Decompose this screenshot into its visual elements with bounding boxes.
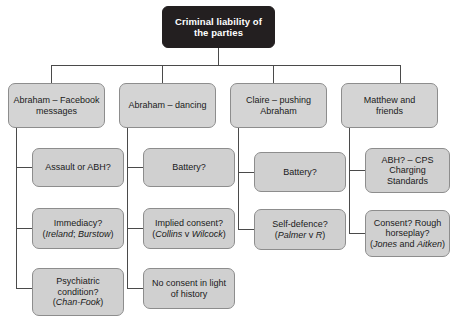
connector-spine-branch-3	[238, 128, 239, 229]
connector-spine-branch-1	[16, 128, 17, 288]
case-name-chan-fook: Chan-Fook	[56, 297, 101, 307]
connector-drop-branch-1	[51, 65, 52, 83]
node-leaf-2-1-line1: Battery?	[172, 162, 206, 172]
case-name-wilcock: Wilcock	[192, 229, 223, 239]
node-branch-abraham-facebook: Abraham – Facebook messages	[8, 83, 105, 128]
node-leaf-abh-cps-charging-standards: ABH? – CPS Charging Standards	[365, 148, 450, 193]
node-leaf-psychiatric-condition: Psychiatric condition? (Chan-Fook)	[32, 268, 124, 316]
node-leaf-4-1-line2: Charging	[389, 165, 426, 175]
node-leaf-assault-or-abh: Assault or ABH?	[32, 148, 124, 187]
case-name-palmer: Palmer	[278, 230, 307, 240]
node-leaf-battery-claire: Battery?	[254, 152, 346, 192]
connector-spine-branch-4	[349, 128, 350, 233]
node-leaf-immediacy: Immediacy? (Ireland; Burstow)	[32, 208, 124, 249]
node-leaf-4-2-line2: horseplay?	[385, 228, 429, 238]
node-leaf-self-defence: Self-defence? (Palmer v R)	[254, 209, 346, 250]
node-leaf-4-2-citation: (Jones and Aitken)	[370, 239, 445, 249]
connector-stub-1-1	[16, 167, 32, 168]
node-leaf-2-3-line1: No consent in light	[152, 278, 226, 288]
connector-stub-1-2	[16, 228, 32, 229]
node-branch-4-line1: Matthew and	[364, 95, 416, 105]
connector-stub-3-1	[238, 172, 254, 173]
connector-stub-4-1	[349, 170, 365, 171]
node-leaf-3-2-line1: Self-defence?	[272, 219, 328, 229]
node-branch-4-line2: friends	[376, 106, 403, 116]
node-leaf-4-1-line3: Standards	[387, 176, 428, 186]
node-leaf-implied-consent: Implied consent? (Collins v Wilcock)	[143, 208, 235, 249]
node-branch-2-line1: Abraham – dancing	[128, 100, 206, 110]
node-branch-1-line2: messages	[36, 106, 77, 116]
node-root: Criminal liability of the parties	[162, 6, 275, 48]
connector-spine-branch-2	[127, 128, 128, 288]
connector-drop-branch-4	[400, 65, 401, 83]
case-name-collins: Collins	[155, 229, 182, 239]
node-leaf-no-consent-history: No consent in light of history	[143, 268, 235, 309]
node-leaf-3-1-line1: Battery?	[283, 167, 317, 177]
node-branch-claire-pushing: Claire – pushing Abraham	[230, 83, 327, 128]
node-leaf-2-3-line2: of history	[171, 289, 208, 299]
node-root-line1: Criminal liability of	[175, 16, 262, 27]
node-leaf-3-2-citation: (Palmer v R)	[275, 230, 326, 240]
case-name-jones: Jones	[373, 239, 397, 249]
connector-drop-branch-2	[162, 65, 163, 83]
node-leaf-1-2-line1: Immediacy?	[54, 218, 103, 228]
node-leaf-consent-rough-horseplay: Consent? Rough horseplay? (Jones and Ait…	[365, 210, 450, 257]
node-branch-3-line1: Claire – pushing	[246, 95, 311, 105]
connector-root-bus	[51, 65, 400, 66]
node-leaf-4-2-line1: Consent? Rough	[374, 218, 442, 228]
node-root-line2: the parties	[194, 27, 243, 38]
connector-root-stem	[218, 48, 219, 65]
node-leaf-2-2-citation: (Collins v Wilcock)	[152, 229, 225, 239]
connector-stub-2-3	[127, 288, 143, 289]
connector-drop-branch-3	[273, 65, 274, 83]
node-leaf-1-2-citation: (Ireland; Burstow)	[42, 229, 113, 239]
flowchart-canvas: Criminal liability of the parties Abraha…	[0, 0, 458, 332]
node-branch-abraham-dancing: Abraham – dancing	[119, 83, 216, 128]
connector-stub-4-2	[349, 233, 365, 234]
node-leaf-1-1-line1: Assault or ABH?	[45, 162, 111, 172]
node-branch-1-line1: Abraham – Facebook	[13, 95, 99, 105]
node-leaf-2-2-line1: Implied consent?	[155, 218, 223, 228]
node-leaf-1-3-citation: (Chan-Fook)	[53, 297, 104, 307]
node-branch-3-line2: Abraham	[260, 106, 297, 116]
node-leaf-battery-dancing: Battery?	[143, 148, 235, 187]
node-leaf-1-3-line2: condition?	[57, 287, 98, 297]
case-name-burstow: Burstow	[78, 229, 111, 239]
connector-stub-2-1	[127, 167, 143, 168]
case-name-ireland: Ireland	[45, 229, 73, 239]
case-name-aitken: Aitken	[417, 239, 442, 249]
connector-stub-3-2	[238, 229, 254, 230]
node-branch-matthew-friends: Matthew and friends	[341, 83, 438, 128]
connector-stub-2-2	[127, 228, 143, 229]
connector-stub-1-3	[16, 288, 32, 289]
node-leaf-4-1-line1: ABH? – CPS	[381, 155, 433, 165]
node-leaf-1-3-line1: Psychiatric	[56, 276, 100, 286]
